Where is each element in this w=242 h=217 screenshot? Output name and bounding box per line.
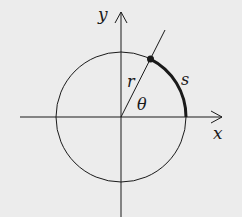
radius-label: r — [127, 72, 136, 91]
arc-label: s — [181, 70, 189, 89]
x-axis-label: x — [213, 123, 223, 143]
angle-label: θ — [137, 95, 147, 114]
unit-circle-diagram: y x r s θ — [0, 0, 242, 217]
point-on-circle — [147, 56, 154, 63]
y-axis-label: y — [97, 4, 108, 24]
